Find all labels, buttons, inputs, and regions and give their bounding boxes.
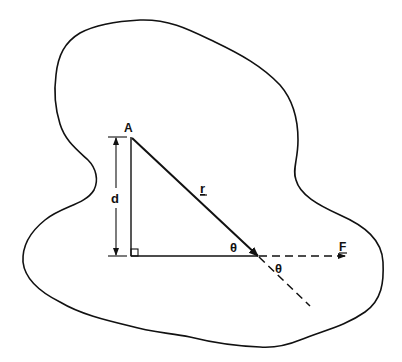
label-force-F: F — [339, 240, 346, 254]
label-angle-outer: θ — [275, 261, 282, 276]
label-distance-d: d — [111, 191, 119, 206]
label-position-vector-r: r — [200, 181, 205, 196]
moment-diagram: A d r F θ θ — [0, 0, 402, 362]
label-angle-inner: θ — [230, 240, 237, 255]
position-vector-r — [132, 138, 258, 256]
r-extension — [259, 257, 310, 306]
label-point-A: A — [124, 121, 133, 135]
right-angle-marker — [131, 249, 138, 256]
diagram-canvas: A d r F θ θ — [0, 0, 402, 362]
